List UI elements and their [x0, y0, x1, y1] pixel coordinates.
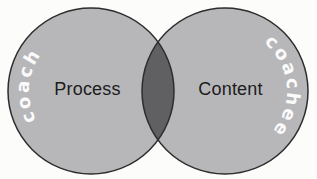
content-label: Content	[198, 79, 262, 99]
venn-diagram-canvas: Process Content coach coachee	[0, 0, 317, 179]
process-label: Process	[54, 79, 120, 99]
venn-diagram: Process Content coach coachee	[0, 0, 317, 179]
